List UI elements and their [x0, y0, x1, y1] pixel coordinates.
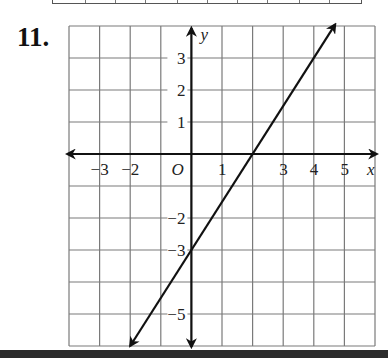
y-axis-label: y — [198, 25, 208, 44]
x-tick-label: 4 — [310, 160, 319, 179]
x-tick-label: 3 — [279, 160, 288, 179]
y-tick-label: 1 — [177, 113, 186, 132]
x-tick-label: −3 — [91, 160, 109, 179]
y-tick-label: 2 — [177, 81, 186, 100]
y-tick-label: −3 — [167, 241, 185, 260]
bottom-bar — [0, 350, 388, 358]
x-tick-label: 1 — [218, 160, 227, 179]
coordinate-graph: −3−21345321−2−3−5Oxy — [0, 0, 388, 358]
y-tick-label: −2 — [167, 209, 185, 228]
origin-label: O — [171, 160, 183, 179]
x-tick-label: −2 — [121, 160, 139, 179]
x-axis-label: x — [366, 160, 375, 179]
x-tick-label: 5 — [340, 160, 349, 179]
y-tick-label: 3 — [177, 49, 186, 68]
y-tick-label: −5 — [167, 305, 185, 324]
